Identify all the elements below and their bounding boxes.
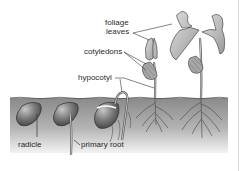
right-edge-rule — [238, 0, 239, 171]
foliage-leaf-right — [202, 14, 225, 54]
primary-root-label: primary root — [81, 141, 124, 149]
foliage-leaves-label-line2: leaves — [106, 28, 129, 36]
hypocotyl-label: hypocotyl — [78, 74, 112, 82]
cotyledons-label: cotyledons — [84, 48, 122, 56]
foliage-leaves-label-line1: foliage — [105, 19, 129, 27]
foliage-leaf-left — [170, 11, 199, 60]
radicle-label: radicle — [18, 141, 42, 149]
germination-diagram: foliage leaves cotyledons hypocotyl radi… — [0, 0, 241, 171]
